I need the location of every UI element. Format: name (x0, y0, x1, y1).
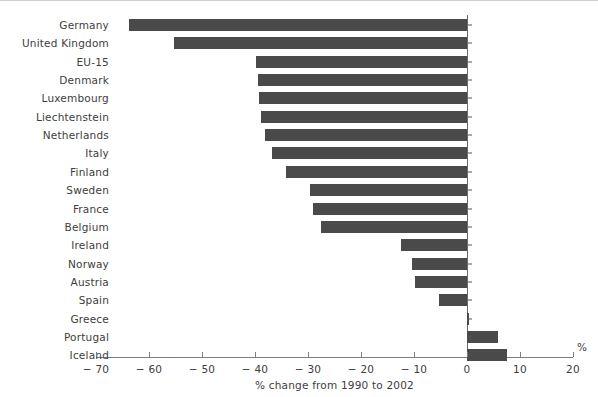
bar (313, 203, 467, 215)
row-tick-mark (468, 281, 472, 282)
category-label: Norway (0, 258, 109, 270)
bar (310, 184, 467, 196)
category-label: United Kingdom (0, 37, 109, 49)
bar (401, 239, 467, 251)
x-tick (149, 352, 150, 357)
row-tick-mark (468, 171, 472, 172)
x-tick (573, 352, 574, 357)
x-tick-label: − 30 (295, 363, 322, 375)
row-tick-mark (468, 153, 472, 154)
category-label: Netherlands (0, 129, 109, 141)
category-label: Sweden (0, 184, 109, 196)
category-label: Italy (0, 147, 109, 159)
x-tick-label: 0 (464, 363, 471, 375)
category-label: EU-15 (0, 56, 109, 68)
row-tick-mark (468, 336, 472, 337)
category-label: Austria (0, 276, 109, 288)
bar (258, 74, 467, 86)
category-label: Greece (0, 313, 109, 325)
x-tick-label: 10 (513, 363, 527, 375)
bar (261, 111, 467, 123)
category-label: Finland (0, 166, 109, 178)
bar (259, 92, 467, 104)
bar (415, 276, 467, 288)
category-label: Liechtenstein (0, 111, 109, 123)
bar (129, 19, 467, 31)
category-label: Spain (0, 294, 109, 306)
x-tick (96, 352, 97, 357)
x-tick-label: − 50 (189, 363, 216, 375)
x-tick (202, 352, 203, 357)
row-tick-mark (468, 226, 472, 227)
x-axis-title: % change from 1990 to 2002 (255, 379, 414, 391)
category-label: Germany (0, 19, 109, 31)
x-tick-label: − 60 (136, 363, 163, 375)
category-label: Denmark (0, 74, 109, 86)
row-tick-mark (468, 98, 472, 99)
x-tick-label: − 40 (242, 363, 269, 375)
row-tick-mark (468, 80, 472, 81)
x-tick (467, 352, 468, 357)
bar (467, 349, 507, 361)
category-label: Belgium (0, 221, 109, 233)
category-label: Luxembourg (0, 92, 109, 104)
category-label: France (0, 203, 109, 215)
row-tick-mark (468, 61, 472, 62)
row-tick-mark (468, 355, 472, 356)
category-label: Portugal (0, 331, 109, 343)
chart-figure: GermanyUnited KingdomEU-15DenmarkLuxembo… (0, 0, 598, 397)
row-tick-mark (468, 135, 472, 136)
x-axis-unit-label: % (577, 341, 587, 353)
row-tick-mark (468, 190, 472, 191)
bar (286, 166, 467, 178)
bar (174, 37, 467, 49)
x-tick-label: − 70 (83, 363, 110, 375)
x-tick-label: − 20 (348, 363, 375, 375)
bar (321, 221, 467, 233)
row-tick-mark (468, 116, 472, 117)
row-tick-mark (468, 318, 472, 319)
x-tick (520, 352, 521, 357)
bar (256, 56, 467, 68)
bar (412, 258, 467, 270)
row-tick-mark (468, 43, 472, 44)
bar (265, 129, 467, 141)
row-tick-mark (468, 263, 472, 264)
category-label: Ireland (0, 239, 109, 251)
x-tick (255, 352, 256, 357)
row-tick-mark (468, 245, 472, 246)
row-tick-mark (468, 300, 472, 301)
bar (439, 294, 467, 306)
x-tick (414, 352, 415, 357)
row-tick-mark (468, 208, 472, 209)
bar (272, 147, 467, 159)
x-tick-label: 20 (566, 363, 580, 375)
bar-chart-plot-area: GermanyUnited KingdomEU-15DenmarkLuxembo… (0, 1, 598, 397)
zero-baseline (467, 15, 468, 357)
x-tick-label: − 10 (401, 363, 428, 375)
x-tick (308, 352, 309, 357)
category-label: Iceland (0, 349, 109, 361)
row-tick-mark (468, 25, 472, 26)
x-tick (361, 352, 362, 357)
